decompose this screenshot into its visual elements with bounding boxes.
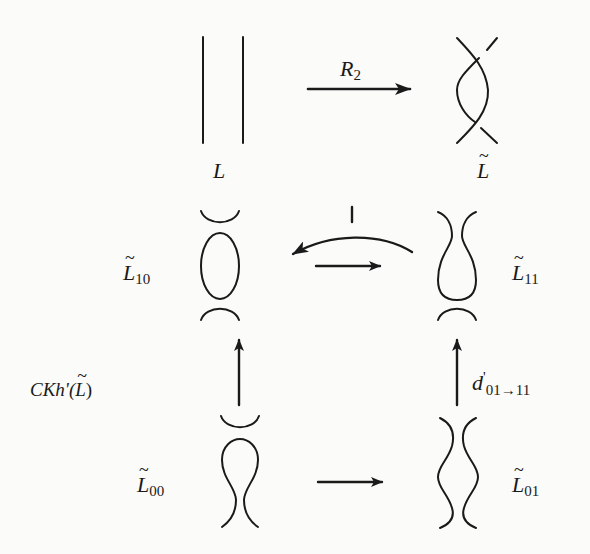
resolution-01	[438, 418, 478, 528]
figure-canvas: L R2 ~L ~L10 ~L11 ~L00 ~L01 CKh'(~L) d'0…	[0, 0, 590, 554]
curved-arrow	[293, 238, 412, 254]
resolution-11	[438, 212, 476, 320]
label-differential: d'01→11	[472, 370, 530, 398]
label-L01: ~L01	[512, 474, 539, 499]
resolution-00	[221, 416, 259, 527]
label-L: L	[213, 160, 225, 182]
label-L-tilde: ~L	[477, 160, 489, 182]
label-L10: ~L10	[123, 262, 150, 287]
tangle-L	[203, 37, 243, 143]
resolution-10	[201, 211, 239, 320]
knot-diagram	[0, 0, 590, 554]
label-complex-CKh: CKh'(~L)	[30, 380, 92, 399]
label-R2: R2	[340, 58, 361, 83]
label-L00: ~L00	[137, 474, 164, 499]
label-L11: ~L11	[512, 262, 539, 287]
tangle-L-tilde	[457, 38, 497, 143]
